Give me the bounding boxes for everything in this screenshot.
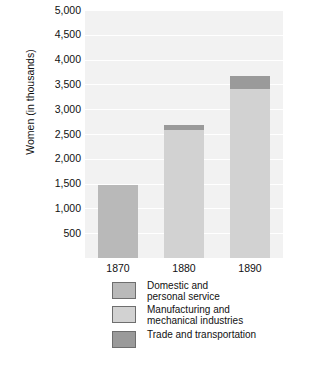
chart-legend: Domestic and personal serviceManufacturi… [112,281,312,351]
bar-segment [164,130,204,258]
legend-item: Domestic and personal service [112,281,312,302]
x-tick-label: 1880 [149,262,219,274]
bar-1890 [230,76,270,259]
y-tick-label: 5,000 [36,5,81,16]
gridline [85,35,283,36]
plot-area [85,10,283,258]
legend-label: Manufacturing and mechanical industries [147,305,243,326]
x-axis-tick-labels: 187018801890 [85,262,283,278]
bar-segment [98,185,138,258]
legend-label: Trade and transportation [147,330,256,341]
legend-swatch [112,306,136,323]
legend-label: Domestic and personal service [147,281,220,302]
y-axis-tick-labels: 5001,0001,5002,0002,5003,0003,5004,0004,… [33,0,81,366]
y-tick-label: 1,000 [36,203,81,214]
bar-segment [230,76,270,90]
bar-segment [230,89,270,258]
y-tick-label: 4,500 [36,29,81,40]
legend-item: Manufacturing and mechanical industries [112,305,312,326]
y-tick-label: 2,500 [36,129,81,140]
y-tick-label: 4,000 [36,54,81,65]
y-tick-label: 500 [36,228,81,239]
y-tick-label: 3,500 [36,79,81,90]
x-tick-label: 1890 [215,262,285,274]
x-tick-label: 1870 [83,262,153,274]
y-tick-label: 1,500 [36,178,81,189]
chart-figure: Women (in thousands) 5001,0001,5002,0002… [0,0,312,366]
y-tick-label: 3,000 [36,104,81,115]
y-tick-label: 2,000 [36,153,81,164]
legend-swatch [112,331,136,348]
legend-item: Trade and transportation [112,330,312,348]
gridline [85,60,283,61]
legend-swatch [112,282,136,299]
gridline [85,10,283,11]
bar-1880 [164,125,204,258]
bar-1870 [98,185,138,258]
